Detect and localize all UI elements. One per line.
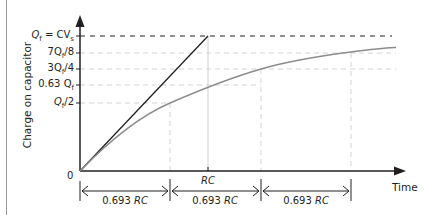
tick-sub: f	[72, 84, 74, 92]
tick-text: 0.63 Q	[38, 78, 71, 89]
origin-label: 0	[67, 170, 73, 181]
interval-label-1: 0.693 RC	[102, 195, 148, 206]
rc-text: RC	[201, 175, 215, 186]
horizontal-guides	[80, 53, 396, 103]
interval-num: 0.693	[283, 195, 315, 206]
tick-text: Q	[31, 29, 39, 40]
interval-unit: RC	[224, 195, 238, 206]
tick-sub2: s	[70, 35, 74, 43]
tick-suffix: /8	[64, 46, 74, 57]
interval-label-3: 0.693 RC	[283, 195, 329, 206]
tick-suffix: /2	[64, 96, 74, 107]
tick-label-3qf-4: 3Qf/4	[48, 62, 74, 76]
x-axis-label: Time	[392, 181, 418, 193]
y-axis-arrow-icon	[76, 15, 85, 27]
tick-label-qf: Qf = CVs	[31, 29, 74, 43]
interval-unit: RC	[134, 195, 148, 206]
interval-label-2: 0.693 RC	[192, 195, 238, 206]
vertical-guides	[170, 53, 351, 171]
tick-suffix: /4	[64, 62, 74, 73]
interval-unit: RC	[315, 195, 329, 206]
rc-marker-label: RC	[201, 175, 215, 186]
tick-suffix: = CV	[42, 29, 71, 40]
tick-label-qf-2: Qf/2	[54, 96, 74, 110]
tick-text: 7Q	[48, 46, 62, 57]
tick-text: 3Q	[48, 62, 62, 73]
tick-label-7qf-8: 7Qf/8	[48, 46, 74, 60]
interval-num: 0.693	[192, 195, 224, 206]
charge-curve	[80, 48, 396, 172]
y-axis-label: Charge on capacitor	[21, 42, 33, 148]
tick-label-063qf: 0.63 Qf	[38, 78, 74, 92]
tick-text: Q	[54, 96, 62, 107]
interval-num: 0.693	[102, 195, 134, 206]
x-axis-arrow-icon	[394, 167, 406, 176]
